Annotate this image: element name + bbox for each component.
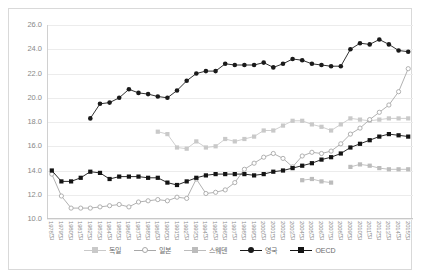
y-axis-tick-label: 24.0 — [27, 46, 42, 54]
x-axis-tick-label: 1990년 — [163, 221, 172, 239]
data-point — [377, 118, 381, 122]
data-point — [156, 176, 160, 180]
data-point — [329, 149, 333, 153]
legend-item-스웨덴[interactable]: 스웨덴 — [184, 245, 227, 255]
legend-label: 영국 — [265, 245, 277, 255]
x-axis-tick-label: 2006년 — [317, 221, 326, 239]
x-axis-tick-label: 1989년 — [153, 221, 162, 239]
legend-item-OECD[interactable]: OECD — [290, 246, 335, 255]
data-point — [300, 154, 304, 158]
data-point — [127, 87, 132, 92]
data-point — [185, 147, 189, 151]
series-line — [52, 69, 408, 208]
data-point — [406, 135, 410, 139]
data-point — [242, 172, 246, 176]
x-axis-tick-label: 1984년 — [105, 221, 114, 239]
x-axis-tick-label: 1993년 — [192, 221, 201, 239]
data-point — [281, 62, 286, 67]
data-point — [233, 181, 237, 185]
data-point — [339, 122, 343, 126]
data-point — [310, 161, 314, 165]
data-point — [194, 176, 198, 180]
gridline — [47, 219, 413, 220]
data-point — [242, 63, 247, 68]
data-point — [310, 177, 314, 181]
x-axis-tick-label: 1980년 — [67, 221, 76, 239]
data-point — [79, 206, 83, 210]
data-point — [233, 172, 237, 176]
data-point — [185, 179, 189, 183]
x-axis-tick-label: 2010년 — [356, 221, 365, 239]
x-axis-tick-label: 1986년 — [124, 221, 133, 239]
data-point — [367, 42, 372, 47]
data-point — [319, 125, 323, 129]
data-point — [252, 63, 257, 68]
data-point — [310, 62, 315, 67]
y-axis-tick-label: 14.0 — [27, 167, 42, 175]
data-point — [377, 166, 381, 170]
series-일본 — [50, 67, 411, 211]
data-point — [213, 69, 218, 74]
x-axis-tick-label: 1991년 — [173, 221, 182, 239]
data-point — [319, 179, 323, 183]
data-point — [262, 128, 266, 132]
x-axis-tick-label: 2012년 — [375, 221, 384, 239]
data-point — [165, 199, 169, 203]
data-point — [348, 47, 353, 52]
data-point — [242, 167, 246, 171]
x-axis-tick-label: 2000년 — [259, 221, 268, 239]
x-axis-tick-label: 2004년 — [298, 221, 307, 239]
x-axis-tick-label: 2005년 — [307, 221, 316, 239]
data-point — [175, 195, 179, 199]
data-point — [329, 64, 334, 69]
legend-item-일본[interactable]: 일본 — [134, 245, 171, 255]
legend-item-영국[interactable]: 영국 — [240, 245, 277, 255]
data-point — [406, 116, 410, 120]
x-axis-tick-label: 1994년 — [201, 221, 210, 239]
data-point — [223, 137, 227, 141]
data-point — [156, 130, 160, 134]
data-point — [368, 118, 372, 122]
x-axis-tick-label: 1987년 — [134, 221, 143, 239]
data-point — [290, 57, 295, 62]
data-point — [319, 158, 323, 162]
data-point — [204, 173, 208, 177]
data-point — [271, 128, 275, 132]
series-독일 — [156, 116, 411, 150]
data-point — [261, 60, 266, 65]
y-axis-tick-label: 12.0 — [27, 191, 42, 199]
x-axis-tick-label: 1992년 — [182, 221, 191, 239]
series-스웨덴 — [300, 162, 410, 184]
data-point — [165, 132, 169, 136]
data-point — [262, 155, 266, 159]
x-axis-tick-label: 2002년 — [279, 221, 288, 239]
data-point — [377, 135, 381, 139]
data-point — [69, 179, 73, 183]
data-point — [136, 200, 140, 204]
legend-marker-icon — [84, 246, 106, 255]
data-point — [281, 124, 285, 128]
data-point — [117, 175, 121, 179]
data-point — [319, 63, 324, 68]
data-point — [406, 67, 410, 71]
data-point — [59, 179, 63, 183]
data-point — [329, 181, 333, 185]
data-point — [387, 167, 391, 171]
x-axis-tick-label: 1979년 — [57, 221, 66, 239]
data-point — [117, 202, 121, 206]
data-point — [79, 176, 83, 180]
x-axis-tick-label: 2014년 — [394, 221, 403, 239]
data-point — [59, 194, 63, 198]
x-axis-tick-label: 2003년 — [288, 221, 297, 239]
data-point — [214, 190, 218, 194]
data-point — [214, 144, 218, 148]
x-axis-tick-label: 1982년 — [86, 221, 95, 239]
legend-marker-icon — [134, 246, 156, 255]
legend-item-독일[interactable]: 독일 — [84, 245, 121, 255]
data-point — [271, 151, 275, 155]
x-axis-tick-label: 1995년 — [211, 221, 220, 239]
data-point — [146, 199, 150, 203]
data-point — [397, 90, 401, 94]
x-axis-tick-label: 1985년 — [115, 221, 124, 239]
data-point — [88, 116, 93, 121]
